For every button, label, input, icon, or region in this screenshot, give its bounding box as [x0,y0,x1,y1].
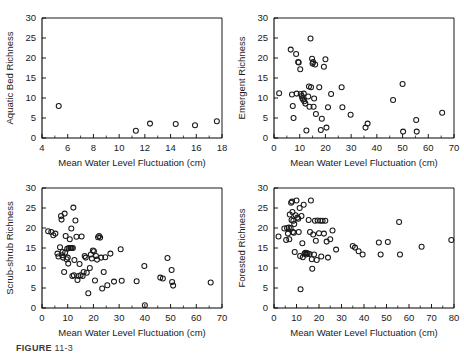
data-point [324,239,329,244]
panel-aquatic-bed: 4681012141618051015202530Mean Water Leve… [0,4,232,174]
data-point [294,52,299,57]
data-point [319,116,324,121]
y-axis-title: Scrub-shrub Richness [4,201,15,295]
y-tick-label: 5 [31,112,36,123]
x-tick-label: 12 [140,142,151,153]
data-point [378,252,383,257]
data-point [148,121,153,126]
data-point [291,116,296,121]
data-point [397,220,402,225]
data-point [296,230,301,235]
x-tick-label: 10 [294,142,305,153]
y-tick-label: 20 [257,52,268,63]
data-point [74,234,79,239]
y-tick-label: 5 [31,282,36,293]
y-tick-label: 10 [257,92,268,103]
y-tick-label: 15 [25,242,36,253]
data-point [298,287,303,292]
data-point [310,56,315,61]
data-point [326,255,331,260]
data-point [105,283,110,288]
figure-caption-label: FIGURE [16,343,52,353]
data-point [118,247,123,252]
plot-scrub-shrub: 010203040506070051015202530Mean Water Le… [0,174,232,344]
axis-lines [274,18,454,138]
y-tick-label: 0 [31,132,36,143]
data-point [318,128,323,133]
data-point [290,104,295,109]
data-point [134,279,139,284]
data-point [62,211,67,216]
data-point [173,122,178,127]
x-tick-label: 10 [114,142,125,153]
data-points [56,104,219,134]
y-tick-label: 30 [25,182,36,193]
data-point [133,128,138,133]
x-tick-label: 20 [314,312,325,323]
data-point [72,258,77,263]
y-tick-label: 0 [263,302,268,313]
data-point [313,112,318,117]
y-axis-title: Forested Richness [236,208,247,287]
y-tick-label: 25 [25,32,36,43]
data-point [401,129,406,134]
data-point [317,85,322,90]
data-point [108,251,113,256]
data-point [323,57,328,62]
data-point [440,110,445,115]
data-point [165,256,170,261]
data-point [79,234,84,239]
y-tick-label: 20 [25,52,36,63]
data-point [169,268,174,273]
data-point [319,254,324,259]
data-points [277,36,445,134]
x-tick-label: 30 [346,142,357,153]
data-point [287,237,292,242]
figure-root: 4681012141618051015202530Mean Water Leve… [0,0,464,356]
data-point [62,270,67,275]
data-point [339,85,344,90]
data-point [376,240,381,245]
data-point [71,205,76,210]
data-point [398,252,403,257]
x-tick-label: 30 [336,312,347,323]
data-point [285,231,290,236]
y-axis-title: Aquatic Bed Richness [4,31,15,124]
x-tick-label: 10 [62,312,73,323]
axis-lines [42,18,222,138]
x-axis-title: Mean Water Level Fluctuation (cm) [290,157,437,168]
data-point [298,67,303,72]
data-point [59,217,64,222]
data-point [321,64,326,69]
x-tick-label: 50 [165,312,176,323]
x-tick-label: 60 [423,142,434,153]
x-axis-title: Mean Water Level Fluctuation (cm) [290,327,437,338]
x-tick-label: 4 [39,142,44,153]
data-point [73,218,78,223]
y-tick-label: 0 [31,302,36,313]
y-tick-label: 20 [257,222,268,233]
x-tick-label: 70 [217,312,228,323]
data-point [288,47,293,52]
data-point [308,198,313,203]
data-point [330,228,335,233]
y-tick-label: 5 [263,112,268,123]
x-tick-label: 30 [114,312,125,323]
x-tick-label: 16 [191,142,202,153]
x-tick-label: 10 [291,312,302,323]
data-point [324,125,329,130]
y-axis-title: Emergent Richness [236,36,247,119]
data-point [304,128,309,133]
x-tick-label: 40 [359,312,370,323]
data-point [308,36,313,41]
data-point [208,280,213,285]
y-tick-label: 10 [25,262,36,273]
data-point [360,252,365,257]
data-point [449,238,454,243]
data-point [277,91,282,96]
panel-scrub-shrub: 010203040506070051015202530Mean Water Le… [0,174,232,344]
data-point [348,112,353,117]
data-point [301,202,306,207]
plot-emergent: 010203040506070051015202530Mean Water Le… [232,4,464,174]
data-point [314,258,319,263]
